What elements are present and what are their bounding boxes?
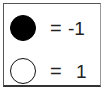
open-circle-icon xyxy=(10,58,36,84)
filled-circle-icon xyxy=(10,15,36,41)
legend-value: 1 xyxy=(76,61,87,83)
equals-sign: = xyxy=(50,60,62,82)
legend-value: -1 xyxy=(68,18,85,40)
legend-box: = -1 = 1 xyxy=(3,3,101,87)
equals-sign: = xyxy=(50,17,62,39)
legend-row-positive: = 1 xyxy=(4,56,100,86)
legend-row-negative: = -1 xyxy=(4,13,100,43)
